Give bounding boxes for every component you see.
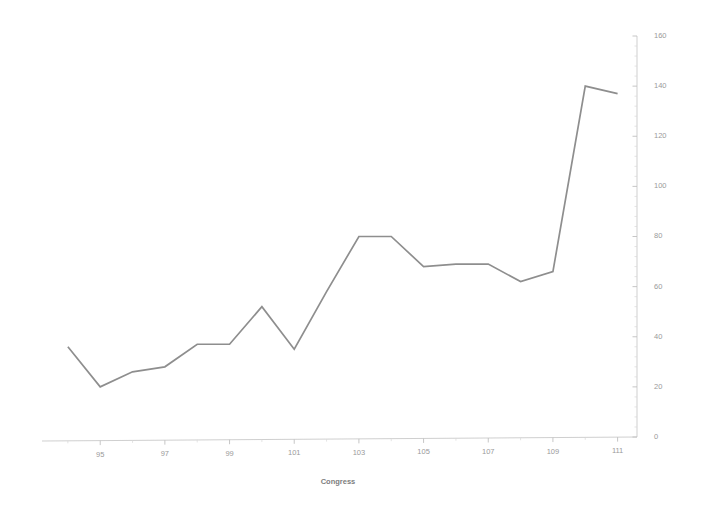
x-axis-ticks xyxy=(68,437,618,445)
y-tick-label-0: 0 xyxy=(654,432,658,441)
y-tick-label-100: 100 xyxy=(654,181,667,190)
y-tick-label-120: 120 xyxy=(654,131,667,140)
chart-container: 959799101103105107109111 Congress 020406… xyxy=(0,0,705,521)
y-tick-label-40: 40 xyxy=(654,332,662,341)
x-tick-label-95: 95 xyxy=(96,450,104,459)
x-tick-label-105: 105 xyxy=(417,447,430,456)
y-axis-ticks xyxy=(633,36,638,437)
y-axis-tick-labels: 020406080100120140160 xyxy=(654,31,667,441)
x-axis-title: Congress xyxy=(321,477,356,486)
x-axis-tick-labels: 959799101103105107109111 xyxy=(96,446,623,458)
x-tick-label-99: 99 xyxy=(225,449,233,458)
series-line-congress xyxy=(68,86,618,387)
y-tick-label-160: 160 xyxy=(654,31,667,40)
data-series-group xyxy=(68,86,618,387)
y-tick-label-60: 60 xyxy=(654,282,662,291)
y-tick-label-20: 20 xyxy=(654,382,662,391)
y-axis: 020406080100120140160 xyxy=(633,31,667,441)
x-tick-label-107: 107 xyxy=(482,447,495,456)
line-chart-svg: 959799101103105107109111 Congress 020406… xyxy=(0,0,705,521)
x-tick-label-97: 97 xyxy=(161,449,169,458)
x-tick-label-101: 101 xyxy=(288,448,301,457)
x-axis-line xyxy=(42,437,637,441)
x-tick-label-109: 109 xyxy=(547,447,560,456)
y-tick-label-140: 140 xyxy=(654,81,667,90)
x-tick-label-111: 111 xyxy=(612,446,623,455)
x-tick-label-103: 103 xyxy=(353,448,366,457)
x-axis: 959799101103105107109111 Congress xyxy=(42,437,637,486)
y-tick-label-80: 80 xyxy=(654,231,662,240)
